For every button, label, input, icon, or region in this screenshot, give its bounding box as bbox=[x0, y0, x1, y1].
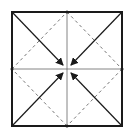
bottom-right-corner-arrow bbox=[71, 73, 122, 126]
bottom-left-corner-arrow bbox=[12, 73, 63, 126]
top-left-corner-arrow bbox=[12, 12, 63, 65]
top-right-corner-arrow bbox=[71, 12, 122, 65]
origami-diagram bbox=[0, 0, 126, 133]
